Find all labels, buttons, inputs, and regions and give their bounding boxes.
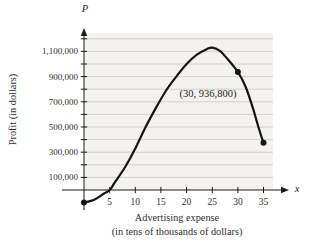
x-tick-label: 25 bbox=[208, 197, 218, 207]
x-tick-label: 10 bbox=[131, 197, 141, 207]
x-tick-label: 20 bbox=[182, 197, 192, 207]
x-axis-title-line1: Advertising expense bbox=[57, 212, 297, 224]
x-axis-arrow-icon bbox=[281, 187, 289, 193]
y-tick-label: 900,000 bbox=[49, 72, 79, 82]
curve-point-dot bbox=[235, 69, 241, 75]
x-tick-label: 5 bbox=[107, 197, 112, 207]
y-axis-title: Profit (in dollars) bbox=[7, 45, 20, 175]
y-tick-label: 300,000 bbox=[49, 147, 79, 157]
x-tick-label: 30 bbox=[233, 197, 243, 207]
y-tick-label: 1,100,000 bbox=[42, 46, 79, 56]
point-annotation: (30, 936,800) bbox=[170, 88, 246, 101]
y-tick-label: 500,000 bbox=[49, 122, 79, 132]
profit-advertising-chart: 5101520253035100,000300,000500,000700,00… bbox=[0, 0, 309, 249]
curve-point-dot bbox=[81, 200, 87, 206]
x-tick-label: 35 bbox=[259, 197, 269, 207]
plot-area bbox=[84, 33, 273, 190]
y-axis-symbol: P bbox=[79, 4, 91, 15]
y-axis-arrow-icon bbox=[81, 28, 87, 36]
y-tick-label: 700,000 bbox=[49, 97, 79, 107]
x-axis-title-line2: (in tens of thousands of dollars) bbox=[57, 226, 297, 238]
y-tick-label: 100,000 bbox=[49, 172, 79, 182]
curve-point-dot bbox=[261, 140, 267, 146]
x-axis-symbol: x bbox=[291, 184, 303, 195]
x-tick-label: 15 bbox=[156, 197, 166, 207]
